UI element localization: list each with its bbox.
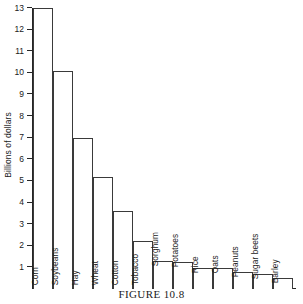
bar-label: Rice bbox=[191, 257, 199, 274]
y-tick-label: 2 bbox=[19, 241, 24, 250]
y-tick-label: 5 bbox=[19, 176, 24, 185]
y-tick-label: 10 bbox=[15, 68, 24, 77]
y-tick-label: 3 bbox=[19, 219, 24, 228]
bar[interactable]: Soybeans bbox=[53, 71, 73, 289]
bar-label: Corn bbox=[31, 267, 39, 285]
y-axis-title-text: Billions of dollars bbox=[3, 112, 13, 178]
bar-label: Sorghum bbox=[151, 232, 159, 266]
y-tick: 5 bbox=[27, 180, 32, 181]
y-tick: 6 bbox=[27, 158, 32, 159]
y-tick-label: 11 bbox=[15, 46, 24, 55]
bar-label: Cotton bbox=[111, 260, 119, 285]
y-tick-label: 6 bbox=[19, 155, 24, 164]
plot-area: 13121110987654321 CornSoybeansHayWheatCo… bbox=[32, 8, 296, 289]
y-tick: 9 bbox=[27, 93, 32, 94]
y-tick: 10 bbox=[27, 72, 32, 73]
y-axis-title: Billions of dollars bbox=[0, 0, 16, 290]
bar-label: Potatoes bbox=[171, 234, 179, 268]
y-tick-label: 1 bbox=[19, 263, 24, 272]
bar-label: Tobacco bbox=[131, 253, 139, 285]
bar-label: Soybeans bbox=[51, 247, 59, 285]
y-tick: 11 bbox=[27, 50, 32, 51]
y-tick-label: 4 bbox=[19, 198, 24, 207]
y-tick: 8 bbox=[27, 115, 32, 116]
bar-label: Wheat bbox=[91, 261, 99, 285]
y-tick: 3 bbox=[27, 223, 32, 224]
figure-caption: FIGURE 10.8 bbox=[0, 288, 303, 300]
y-tick-label: 13 bbox=[15, 3, 24, 12]
y-tick-label: 7 bbox=[19, 133, 24, 142]
y-tick: 13 bbox=[27, 7, 32, 8]
bar-label: Oats bbox=[211, 256, 219, 274]
y-tick: 12 bbox=[27, 29, 32, 30]
y-tick: 2 bbox=[27, 245, 32, 246]
y-tick: 4 bbox=[27, 202, 32, 203]
y-tick: 7 bbox=[27, 137, 32, 138]
y-tick-label: 12 bbox=[15, 25, 24, 34]
bar-label: Hay bbox=[71, 270, 79, 285]
y-tick-label: 9 bbox=[19, 90, 24, 99]
y-tick-label: 8 bbox=[19, 111, 24, 120]
figure-container: Billions of dollars 13121110987654321 Co… bbox=[0, 0, 303, 304]
bar-label: Peanuts bbox=[231, 246, 239, 277]
bar-label: Barley bbox=[271, 259, 279, 283]
bar-label: Sugar beets bbox=[251, 233, 259, 279]
